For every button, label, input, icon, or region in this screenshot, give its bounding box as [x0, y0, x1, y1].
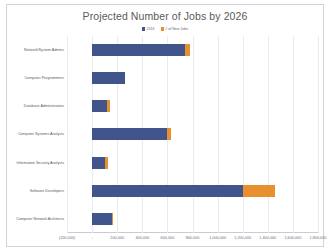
chart-bar-row[interactable]: Computer Network Architects: [67, 205, 318, 233]
gridline: [318, 36, 319, 233]
bar-segment-base[interactable]: [92, 213, 112, 225]
x-axis-tick-label: 1,000,000: [209, 236, 226, 240]
bar-segment-base[interactable]: [92, 44, 185, 56]
plot-area: Network/System AdminsComputer Programmer…: [67, 36, 318, 233]
legend-label: # of New Jobs: [165, 27, 188, 31]
legend-swatch-icon: [161, 27, 164, 30]
x-axis-tick-label: 1,400,000: [259, 236, 276, 240]
chart-bar-row[interactable]: Information Security Analysts: [67, 149, 318, 177]
stacked-bar[interactable]: [92, 128, 171, 140]
x-axis-tick-label: 1,800,000: [310, 236, 327, 240]
bar-segment-new-jobs[interactable]: [185, 44, 190, 56]
x-axis-tick-label: 1,200,000: [234, 236, 251, 240]
bar-segment-base[interactable]: [92, 185, 243, 197]
category-label: Computer Systems Analysts: [18, 132, 64, 136]
chart-bar-row[interactable]: Software Developers: [67, 177, 318, 205]
category-label: Software Developers: [30, 189, 64, 193]
x-axis-tick-label: -: [91, 236, 92, 240]
bar-segment-new-jobs[interactable]: [107, 100, 110, 112]
x-axis-tick-label: 600,000: [161, 236, 175, 240]
bar-segment-base[interactable]: [92, 157, 105, 169]
category-label: Network/System Admins: [24, 48, 64, 52]
category-label: Database Administrators: [24, 104, 64, 108]
x-axis-tick-label: 400,000: [135, 236, 149, 240]
x-axis-tick-label: 1,600,000: [284, 236, 301, 240]
x-axis-tick-label: 800,000: [186, 236, 200, 240]
chart-bar-row[interactable]: Database Administrators: [67, 92, 318, 120]
x-axis-tick-label: 200,000: [110, 236, 124, 240]
chart-bar-row[interactable]: Computer Systems Analysts: [67, 120, 318, 148]
category-label: Computer Programmers: [24, 76, 64, 80]
bar-segment-new-jobs[interactable]: [105, 157, 109, 169]
chart-container[interactable]: Projected Number of Jobs by 2026 2016# o…: [6, 4, 324, 247]
stacked-bar[interactable]: [92, 213, 113, 225]
chart-legend[interactable]: 2016# of New Jobs: [7, 27, 323, 31]
stacked-bar[interactable]: [92, 72, 125, 84]
bar-segment-new-jobs[interactable]: [167, 128, 171, 140]
category-label: Information Security Analysts: [16, 161, 64, 165]
chart-bar-row[interactable]: Network/System Admins: [67, 36, 318, 64]
stacked-bar[interactable]: [92, 44, 190, 56]
legend-item[interactable]: 2016: [142, 27, 155, 31]
bar-segment-new-jobs[interactable]: [243, 185, 276, 197]
x-axis: (200,000)-200,000400,000600,000800,0001,…: [67, 234, 318, 248]
stacked-bar[interactable]: [92, 185, 275, 197]
bar-segment-base[interactable]: [92, 128, 167, 140]
category-label: Computer Network Architects: [16, 217, 64, 221]
legend-label: 2016: [147, 27, 155, 31]
stacked-bar[interactable]: [92, 157, 108, 169]
stacked-bar[interactable]: [92, 100, 110, 112]
x-axis-tick-label: (200,000): [59, 236, 75, 240]
chart-bar-row[interactable]: Computer Programmers: [67, 64, 318, 92]
bar-segment-new-jobs[interactable]: [112, 213, 113, 225]
legend-swatch-icon: [142, 27, 145, 30]
bar-segment-base[interactable]: [92, 100, 107, 112]
bar-segment-base[interactable]: [92, 72, 125, 84]
chart-title: Projected Number of Jobs by 2026: [7, 10, 323, 22]
legend-item[interactable]: # of New Jobs: [161, 27, 188, 31]
